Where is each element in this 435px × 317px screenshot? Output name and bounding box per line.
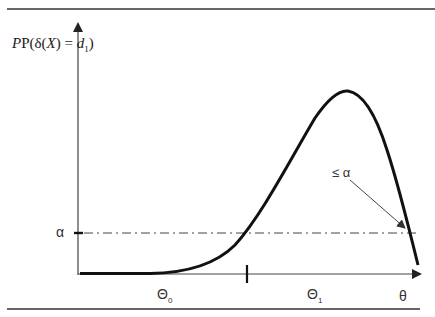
power-function-diagram: PP(δ(X) = d1) α Θ0 Θ1 θ ≤ α [0,0,435,317]
alpha-label: α [56,224,64,240]
power-curve [80,91,418,274]
x-axis-label: θ [399,288,407,304]
theta1-label: Θ1 [307,286,323,305]
theta0-label: Θ0 [157,286,173,305]
y-axis-label: PP(δ(X) = d1) [11,35,94,54]
annotation-label: ≤ α [332,165,351,180]
